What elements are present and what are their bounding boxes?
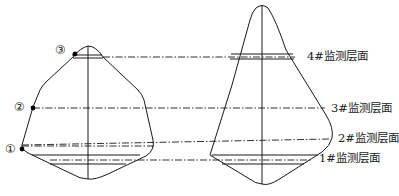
point-2-label: ② (14, 101, 25, 113)
point-3-dot (73, 52, 78, 57)
layer3-label: 3#监测层面 (331, 103, 392, 115)
point-1-label: ① (5, 143, 16, 155)
point-1-dot (20, 147, 25, 152)
layer2-label: 2#监测层面 (338, 133, 399, 145)
layer4-label: 4#监测层面 (307, 51, 368, 63)
right-section-outline (210, 6, 332, 185)
point-3-label: ③ (55, 44, 66, 56)
point-2-dot (31, 106, 36, 111)
layer1-label: 1#监测层面 (319, 153, 380, 165)
layer2-dashdot-line (22, 139, 330, 145)
